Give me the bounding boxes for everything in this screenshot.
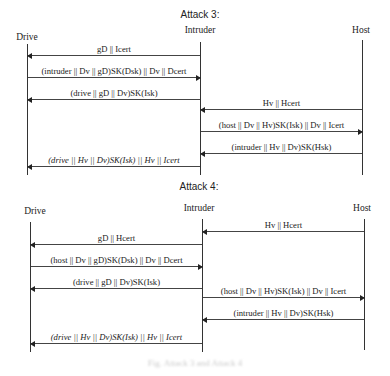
message-label: (drive || Hv || Dv)SK(Isk) || Hv || Icer…: [31, 332, 202, 342]
attack3-title: Attack 3:: [181, 9, 220, 20]
attack3-lane-host: Host: [352, 25, 370, 35]
message-label: (host || Dv || gD)SK(Dsk) || Dv || Dcert: [31, 255, 202, 265]
message-label: gD || Icert: [28, 44, 200, 54]
message-label: Hv || Hcert: [203, 220, 364, 230]
attack4-message-1: Hv || Hcert: [203, 231, 364, 232]
attack4-lane-host: Host: [353, 203, 371, 213]
attack4-lifeline-host: [364, 219, 365, 350]
attack4-message-2: gD || Hcert: [31, 244, 202, 245]
attack4-title: Attack 4:: [180, 181, 219, 192]
message-label: (intruder || Dv || gD)SK(Dsk) || Dv || D…: [28, 66, 200, 76]
attack4-lane-intruder: Intruder: [184, 203, 215, 213]
attack4-message-7: (drive || Hv || Dv)SK(Isk) || Hv || Icer…: [31, 343, 202, 344]
attack3-message-4: Hv || Hcert: [201, 109, 362, 110]
attack3-lane-intruder: Intruder: [185, 25, 216, 35]
message-label: (host || Dv || Hv)SK(Isk) || Dv || Icert: [201, 120, 362, 130]
attack3-message-5: (host || Dv || Hv)SK(Isk) || Dv || Icert: [201, 131, 362, 132]
attack4-message-5: (host || Dv || Hv)SK(Isk) || Dv || Icert: [203, 297, 364, 298]
attack3-lifeline-host: [362, 40, 363, 175]
attack3-message-6: (intruder || Hv || Dv)SK(Hsk): [201, 153, 362, 154]
figure-caption: Fig. Attack 3 and Attack 4: [148, 358, 243, 368]
attack4-message-3: (host || Dv || gD)SK(Dsk) || Dv || Dcert: [31, 266, 202, 267]
attack3-message-7: (drive || Hv || Dv)SK(Isk) || Hv || Icer…: [28, 166, 200, 167]
message-label: (drive || Hv || Dv)SK(Isk) || Hv || Icer…: [28, 155, 200, 165]
message-label: (intruder || Hv || Dv)SK(Hsk): [201, 142, 362, 152]
attack3-lane-drive: Drive: [16, 32, 38, 42]
message-label: (drive || gD || Dv)SK(Isk): [28, 88, 200, 98]
attack3-message-1: gD || Icert: [28, 55, 200, 56]
attack4-lane-drive: Drive: [24, 206, 46, 216]
attack4-message-4: (drive || gD || Dv)SK(Isk): [31, 288, 202, 289]
attack3-message-2: (intruder || Dv || gD)SK(Dsk) || Dv || D…: [28, 77, 200, 78]
message-label: gD || Hcert: [31, 233, 202, 243]
attack4-message-6: (intruder || Hv || Dv)SK(Hsk): [203, 319, 364, 320]
message-label: (intruder || Hv || Dv)SK(Hsk): [203, 308, 364, 318]
attack3-message-3: (drive || gD || Dv)SK(Isk): [28, 99, 200, 100]
message-label: Hv || Hcert: [201, 98, 362, 108]
message-label: (host || Dv || Hv)SK(Isk) || Dv || Icert: [203, 286, 364, 296]
message-label: (drive || gD || Dv)SK(Isk): [31, 277, 202, 287]
